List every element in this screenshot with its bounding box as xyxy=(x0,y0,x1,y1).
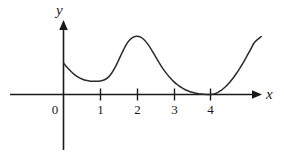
x-axis-arrowhead xyxy=(252,90,262,99)
y-axis-arrowhead xyxy=(59,20,68,30)
x-tick-label-2: 2 xyxy=(134,102,141,117)
function-curve xyxy=(64,36,262,94)
x-tick-label-1: 1 xyxy=(97,102,104,117)
function-graph-plot: x y 0 1 2 3 4 xyxy=(0,0,284,160)
math-figure: x y 0 1 2 3 4 xyxy=(0,0,284,160)
x-axis xyxy=(10,90,262,99)
origin-label: 0 xyxy=(52,102,59,117)
x-tick-label-3: 3 xyxy=(171,102,178,117)
y-axis xyxy=(59,20,68,150)
x-tick-label-4: 4 xyxy=(207,102,214,117)
x-axis-label: x xyxy=(265,86,273,102)
y-axis-label: y xyxy=(54,2,63,18)
